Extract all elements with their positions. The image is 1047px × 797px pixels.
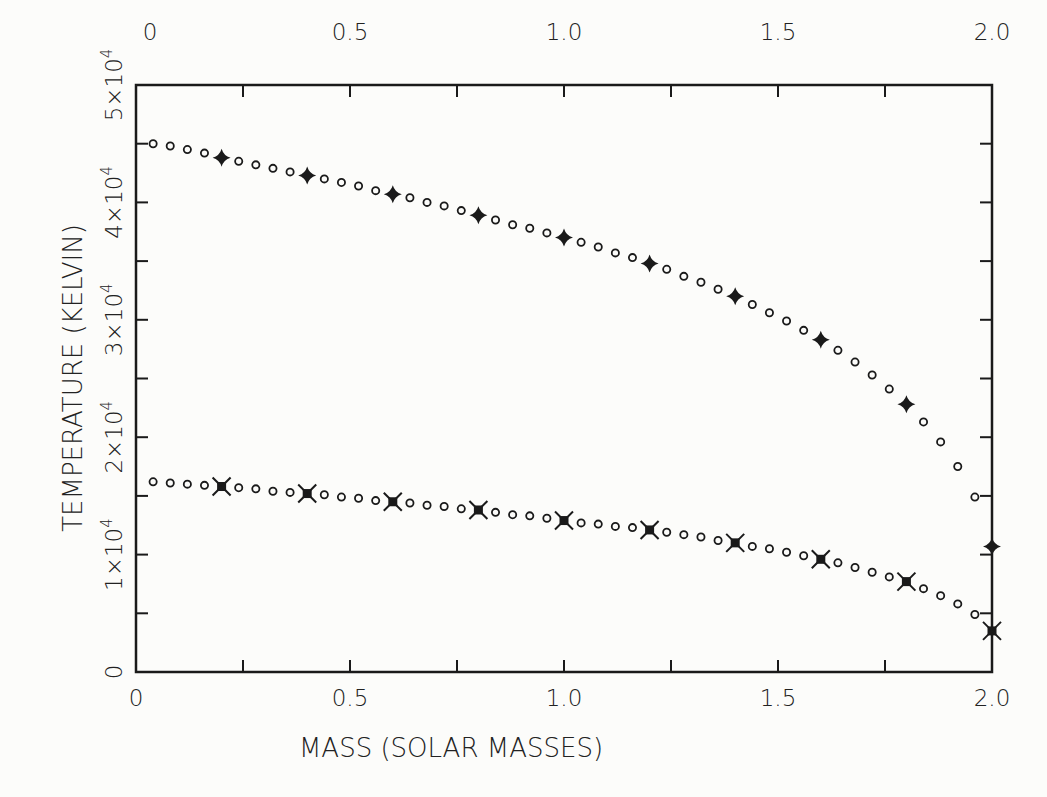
x-tick-label: 0.5 bbox=[332, 685, 369, 711]
open-circle-marker-icon bbox=[509, 511, 516, 518]
open-circle-marker-icon bbox=[423, 199, 430, 206]
open-circle-marker-icon bbox=[920, 418, 927, 425]
x-tick-label-top: 1.0 bbox=[546, 19, 583, 45]
open-circle-marker-icon bbox=[492, 216, 499, 223]
open-circle-marker-icon bbox=[201, 149, 208, 156]
open-circle-marker-icon bbox=[578, 519, 585, 526]
y-tick-label: 2×104 bbox=[98, 401, 127, 474]
series-upper bbox=[150, 140, 1001, 555]
plot-frame bbox=[136, 85, 992, 672]
y-tick-label: 4×104 bbox=[98, 166, 127, 239]
x-axis-tick-labels-top: 00.51.01.52.0 bbox=[143, 19, 1011, 45]
x-axis-tick-labels-bottom: 00.51.01.52.0 bbox=[129, 685, 1011, 711]
open-circle-marker-icon bbox=[834, 559, 841, 566]
x-tick-label: 1.0 bbox=[546, 685, 583, 711]
data-series bbox=[150, 140, 1001, 640]
open-circle-marker-icon bbox=[167, 479, 174, 486]
open-circle-marker-icon bbox=[286, 168, 293, 175]
open-circle-marker-icon bbox=[954, 463, 961, 470]
open-circle-marker-icon bbox=[269, 165, 276, 172]
open-circle-marker-icon bbox=[971, 493, 978, 500]
open-circle-marker-icon bbox=[851, 358, 858, 365]
filled-star-marker-icon bbox=[213, 149, 231, 167]
open-circle-marker-icon bbox=[612, 249, 619, 256]
open-circle-marker-icon bbox=[458, 505, 465, 512]
filled-star-marker-icon bbox=[555, 229, 573, 247]
open-circle-marker-icon bbox=[355, 495, 362, 502]
axis-ticks bbox=[136, 85, 992, 672]
open-circle-marker-icon bbox=[766, 309, 773, 316]
open-circle-marker-icon bbox=[869, 569, 876, 576]
x-tick-label: 1.5 bbox=[760, 685, 797, 711]
open-circle-marker-icon bbox=[441, 503, 448, 510]
open-circle-marker-icon bbox=[355, 182, 362, 189]
filled-star-marker-icon bbox=[812, 331, 830, 349]
open-circle-marker-icon bbox=[680, 273, 687, 280]
x-axis-title: MASS (SOLAR MASSES) bbox=[299, 733, 603, 763]
open-circle-marker-icon bbox=[680, 531, 687, 538]
open-circle-marker-icon bbox=[714, 286, 721, 293]
open-circle-marker-icon bbox=[526, 512, 533, 519]
filled-star-marker-icon bbox=[298, 166, 316, 184]
open-circle-marker-icon bbox=[971, 611, 978, 618]
open-circle-marker-icon bbox=[869, 371, 876, 378]
open-circle-marker-icon bbox=[167, 142, 174, 149]
y-tick-label: 5×104 bbox=[98, 49, 127, 122]
filled-star-marker-icon bbox=[897, 395, 915, 413]
open-circle-marker-icon bbox=[783, 317, 790, 324]
x-tick-label: 2.0 bbox=[974, 685, 1011, 711]
open-circle-marker-icon bbox=[526, 225, 533, 232]
open-circle-marker-icon bbox=[338, 179, 345, 186]
filled-star-marker-icon bbox=[384, 185, 402, 203]
open-circle-marker-icon bbox=[749, 301, 756, 308]
open-circle-marker-icon bbox=[201, 482, 208, 489]
filled-star-marker-icon bbox=[983, 537, 1001, 555]
plot-border bbox=[136, 85, 992, 672]
filled-star-marker-icon bbox=[726, 287, 744, 305]
y-tick-label: 1×104 bbox=[98, 518, 127, 591]
open-circle-marker-icon bbox=[800, 552, 807, 559]
series-lower bbox=[150, 478, 1001, 640]
open-circle-marker-icon bbox=[629, 524, 636, 531]
open-circle-marker-icon bbox=[492, 509, 499, 516]
open-circle-marker-icon bbox=[252, 161, 259, 168]
open-circle-marker-icon bbox=[937, 438, 944, 445]
open-circle-marker-icon bbox=[406, 499, 413, 506]
open-circle-marker-icon bbox=[150, 478, 157, 485]
open-circle-marker-icon bbox=[441, 202, 448, 209]
y-tick-label: 3×104 bbox=[98, 283, 127, 356]
open-circle-marker-icon bbox=[697, 533, 704, 540]
open-circle-marker-icon bbox=[372, 187, 379, 194]
x-tick-label-top: 0 bbox=[143, 19, 158, 45]
open-circle-marker-icon bbox=[783, 549, 790, 556]
y-axis-tick-labels: 01×1042×1043×1044×1045×104 bbox=[98, 49, 127, 680]
open-circle-marker-icon bbox=[886, 573, 893, 580]
open-circle-marker-icon bbox=[851, 564, 858, 571]
open-circle-marker-icon bbox=[595, 520, 602, 527]
open-circle-marker-icon bbox=[578, 239, 585, 246]
y-axis-title: TEMPERATURE (KELVIN) bbox=[58, 224, 88, 532]
open-circle-marker-icon bbox=[286, 489, 293, 496]
open-circle-marker-icon bbox=[406, 194, 413, 201]
open-circle-marker-icon bbox=[629, 254, 636, 261]
open-circle-marker-icon bbox=[184, 481, 191, 488]
open-circle-marker-icon bbox=[886, 385, 893, 392]
x-tick-label-top: 0.5 bbox=[332, 19, 369, 45]
open-circle-marker-icon bbox=[269, 488, 276, 495]
open-circle-marker-icon bbox=[321, 491, 328, 498]
x-tick-label-top: 2.0 bbox=[974, 19, 1011, 45]
open-circle-marker-icon bbox=[543, 515, 550, 522]
open-circle-marker-icon bbox=[920, 585, 927, 592]
open-circle-marker-icon bbox=[458, 207, 465, 214]
open-circle-marker-icon bbox=[749, 543, 756, 550]
open-circle-marker-icon bbox=[766, 545, 773, 552]
open-circle-marker-icon bbox=[150, 140, 157, 147]
open-circle-marker-icon bbox=[612, 523, 619, 530]
chart-canvas: 00.51.01.52.0 00.51.01.52.0 01×1042×1043… bbox=[0, 0, 1047, 797]
open-circle-marker-icon bbox=[954, 600, 961, 607]
open-circle-marker-icon bbox=[543, 229, 550, 236]
open-circle-marker-icon bbox=[937, 592, 944, 599]
x-tick-label: 0 bbox=[129, 685, 144, 711]
x-tick-label-top: 1.5 bbox=[760, 19, 797, 45]
open-circle-marker-icon bbox=[423, 502, 430, 509]
